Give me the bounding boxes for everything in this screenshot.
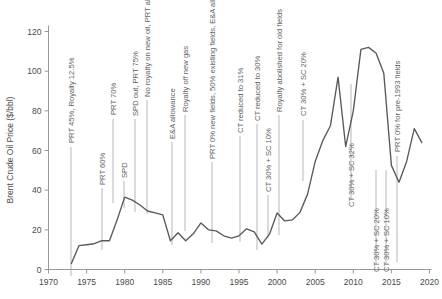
annotation: Royalty abolished for old fields xyxy=(275,9,284,235)
y-tick-label: 80 xyxy=(32,106,42,116)
x-tick-label: 1980 xyxy=(115,277,134,287)
x-tick-label: 1990 xyxy=(191,277,210,287)
annotation: CT 30% + SC 10% xyxy=(382,170,391,272)
annotation-label: SPD xyxy=(120,162,129,178)
annotation-label: PRT 70% xyxy=(109,83,118,115)
y-axis-ticks: 020406080100120 xyxy=(27,27,48,275)
annotation-label: PRT 0% new fields, 50% existing fields, … xyxy=(208,0,217,159)
annotation-label: PRT 45%, Royalty 12.5% xyxy=(67,57,76,143)
annotation-label: CT reduced to 30% xyxy=(253,55,262,121)
x-tick-label: 2010 xyxy=(344,277,363,287)
y-tick-label: 40 xyxy=(32,185,42,195)
x-tick-label: 1975 xyxy=(77,277,96,287)
annotation-label: Royalty off new gas xyxy=(181,46,190,112)
x-tick-label: 2020 xyxy=(420,277,439,287)
annotation-label: E&A allowance xyxy=(168,88,177,139)
chart-container: 020406080100120 197019751980198519901995… xyxy=(0,0,442,299)
y-tick-label: 0 xyxy=(37,265,42,275)
annotation: PRT 70% xyxy=(109,83,118,203)
annotation-label: SPD out, PRT 75% xyxy=(131,51,140,116)
annotation-label: CT 30% + SC 10% xyxy=(382,208,391,272)
y-axis-title: Brent Crude Oil Price ($/bbl) xyxy=(5,96,15,203)
annotation-label: CT 30% + SC 32% xyxy=(347,143,356,207)
annotation: SPD xyxy=(120,162,129,208)
annotation-label: CT 30% + SC 20% xyxy=(299,52,308,116)
annotation-label: No royalty on new oil, PRT allowance dou… xyxy=(143,0,152,97)
annotation: CT 30% + SC 20% xyxy=(372,170,381,272)
annotation: No royalty on new oil, PRT allowance dou… xyxy=(143,0,152,214)
y-tick-label: 100 xyxy=(27,66,41,76)
annotation-label: CT reduced to 31% xyxy=(236,67,245,133)
y-tick-label: 20 xyxy=(32,225,42,235)
annotation: SPD out, PRT 75% xyxy=(131,51,140,212)
x-tick-label: 1985 xyxy=(153,277,172,287)
y-axis-title-text: Brent Crude Oil Price ($/bbl) xyxy=(5,96,15,203)
x-tick-label: 1995 xyxy=(230,277,249,287)
data-series xyxy=(71,47,422,263)
brent-crude-oil-price-line-chart: 020406080100120 197019751980198519901995… xyxy=(0,0,442,299)
annotation-label: PRT 60% xyxy=(98,153,107,185)
annotation: CT 30% + SC 10% xyxy=(264,128,273,238)
x-tick-label: 2000 xyxy=(268,277,287,287)
annotation-label: Royalty abolished for old fields xyxy=(275,9,284,112)
annotation: CT reduced to 31% xyxy=(236,67,245,242)
annotations: PRT 45%, Royalty 12.5%PRT 60%PRT 70%SPDS… xyxy=(67,0,402,276)
annotation: PRT 0% for pre-1993 fields xyxy=(393,60,402,262)
annotation: Royalty off new gas xyxy=(181,46,190,231)
annotation-label: CT 30% + SC 10% xyxy=(264,128,273,192)
annotation: CT reduced to 30% xyxy=(253,55,262,250)
annotation: PRT 0% new fields, 50% existing fields, … xyxy=(208,0,217,243)
annotation: PRT 45%, Royalty 12.5% xyxy=(67,57,76,276)
y-tick-label: 120 xyxy=(27,27,41,37)
annotation: E&A allowance xyxy=(168,88,177,245)
x-tick-label: 1970 xyxy=(39,277,58,287)
y-tick-label: 60 xyxy=(32,146,42,156)
x-tick-label: 2015 xyxy=(382,277,401,287)
annotation: CT 30% + SC 20% xyxy=(299,52,308,181)
annotation-label: CT 30% + SC 20% xyxy=(372,208,381,272)
annotation: PRT 60% xyxy=(98,153,107,250)
price-line xyxy=(71,47,422,263)
x-tick-label: 2005 xyxy=(306,277,325,287)
annotation-label: PRT 0% for pre-1993 fields xyxy=(393,60,402,152)
